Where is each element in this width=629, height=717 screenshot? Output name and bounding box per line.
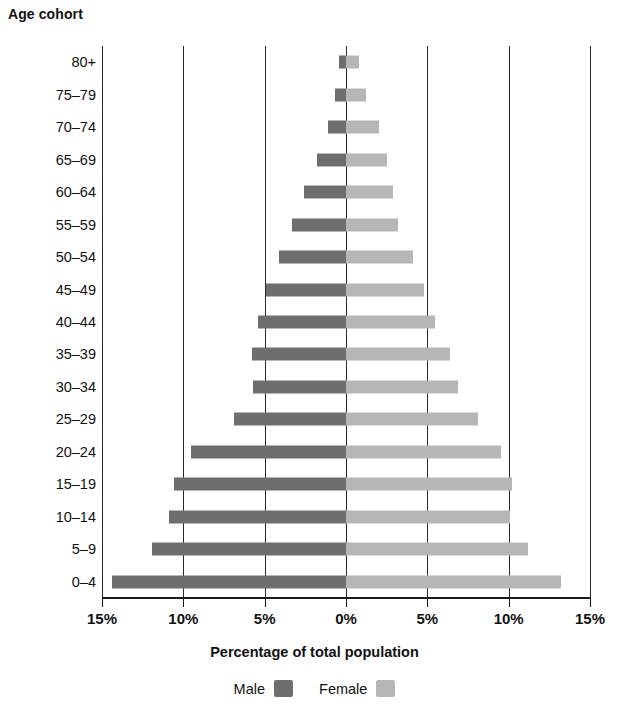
bar-male (169, 510, 346, 523)
y-tick-label: 0–4 (8, 575, 96, 590)
bar-female (346, 478, 512, 491)
bar-row (102, 143, 590, 175)
bar-male (112, 575, 346, 588)
x-tick-label: 5% (254, 610, 276, 627)
y-axis-tick-labels: 80+75–7970–7465–6960–6455–5950–5445–4940… (6, 46, 96, 598)
y-tick-label: 75–79 (8, 88, 96, 103)
bar-male (335, 88, 346, 101)
y-tick-label: 70–74 (8, 120, 96, 135)
bar-male (191, 445, 346, 458)
legend-item-male: Male (234, 680, 293, 697)
x-tick-label: 5% (416, 610, 438, 627)
bar-female (346, 445, 501, 458)
y-tick-label: 5–9 (8, 542, 96, 557)
x-tick-label: 10% (168, 610, 198, 627)
legend-swatch-male-icon (274, 680, 293, 697)
bar-female (346, 348, 450, 361)
x-tick-label: 15% (575, 610, 605, 627)
y-tick-label: 25–29 (8, 412, 96, 427)
chart-legend: Male Female (0, 680, 629, 697)
bar-row (102, 176, 590, 208)
plot-area (102, 46, 590, 598)
bar-row (102, 208, 590, 240)
x-axis-ticks: 15%10%5%0%5%10%15% (0, 598, 629, 638)
x-tick-mark (102, 598, 103, 607)
y-tick-label: 55–59 (8, 218, 96, 233)
bar-row (102, 501, 590, 533)
y-tick-label: 30–34 (8, 380, 96, 395)
x-tick-mark (265, 598, 266, 607)
x-tick-label: 0% (335, 610, 357, 627)
bar-row (102, 533, 590, 565)
bar-male (234, 413, 346, 426)
bar-male (317, 153, 346, 166)
bar-female (346, 121, 379, 134)
x-tick-mark (427, 598, 428, 607)
bar-row (102, 566, 590, 598)
bar-male (279, 251, 346, 264)
bar-female (346, 510, 510, 523)
x-tick-mark (509, 598, 510, 607)
x-tick-label: 10% (494, 610, 524, 627)
legend-label-male: Male (234, 681, 265, 697)
bar-female (346, 543, 528, 556)
bar-row (102, 371, 590, 403)
bar-row (102, 273, 590, 305)
bar-male (174, 478, 346, 491)
bar-male (266, 283, 346, 296)
y-tick-label: 20–24 (8, 445, 96, 460)
x-axis-title: Percentage of total population (0, 644, 629, 660)
y-tick-label: 15–19 (8, 477, 96, 492)
bar-row (102, 241, 590, 273)
x-tick-mark (183, 598, 184, 607)
bar-row (102, 403, 590, 435)
bar-male (152, 543, 346, 556)
legend-item-female: Female (319, 680, 395, 697)
bar-female (346, 283, 424, 296)
bar-male (339, 56, 346, 69)
bar-male (292, 218, 346, 231)
bar-row (102, 78, 590, 110)
bar-row (102, 46, 590, 78)
bar-female (346, 153, 387, 166)
bar-female (346, 218, 398, 231)
x-tick-mark (346, 598, 347, 607)
bar-row (102, 436, 590, 468)
y-tick-label: 80+ (8, 55, 96, 70)
bar-row (102, 111, 590, 143)
bar-female (346, 380, 458, 393)
bar-male (304, 186, 346, 199)
y-tick-label: 40–44 (8, 315, 96, 330)
bar-male (258, 315, 346, 328)
gridline (590, 46, 591, 598)
y-tick-label: 45–49 (8, 283, 96, 298)
bar-female (346, 413, 478, 426)
bar-female (346, 575, 561, 588)
y-tick-label: 50–54 (8, 250, 96, 265)
x-tick-mark (590, 598, 591, 607)
legend-label-female: Female (319, 681, 367, 697)
bar-female (346, 186, 393, 199)
y-axis-title: Age cohort (8, 6, 83, 22)
bar-female (346, 88, 366, 101)
bar-female (346, 315, 435, 328)
y-tick-label: 65–69 (8, 153, 96, 168)
bar-female (346, 251, 413, 264)
bar-male (328, 121, 346, 134)
bar-male (252, 348, 346, 361)
bar-row (102, 338, 590, 370)
legend-swatch-female-icon (376, 680, 395, 697)
y-tick-label: 60–64 (8, 185, 96, 200)
bar-female (346, 56, 359, 69)
bar-male (253, 380, 346, 393)
bar-row (102, 468, 590, 500)
x-tick-label: 15% (87, 610, 117, 627)
population-pyramid-chart: Age cohort 80+75–7970–7465–6960–6455–595… (0, 0, 629, 717)
y-tick-label: 10–14 (8, 510, 96, 525)
bar-row (102, 306, 590, 338)
y-tick-label: 35–39 (8, 347, 96, 362)
